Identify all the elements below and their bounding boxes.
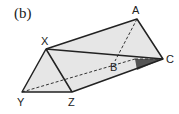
vertex-label-c: C bbox=[166, 54, 174, 65]
vertex-label-z: Z bbox=[68, 97, 75, 108]
vertex-label-b: B bbox=[110, 62, 117, 73]
triangular-prism-diagram bbox=[0, 0, 179, 114]
vertex-label-a: A bbox=[132, 5, 139, 16]
vertex-label-y: Y bbox=[17, 97, 24, 108]
vertex-label-x: X bbox=[41, 36, 48, 47]
